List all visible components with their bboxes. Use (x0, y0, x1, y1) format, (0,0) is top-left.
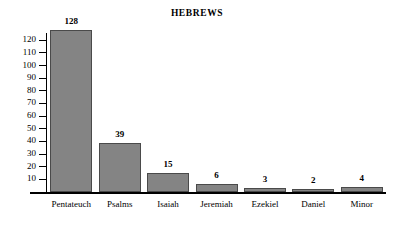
y-tick-mark (39, 116, 47, 117)
plot-area: 12839156324 (47, 33, 386, 192)
bar[interactable] (196, 184, 238, 192)
y-tick-label: 90 (0, 73, 36, 82)
y-tick-label: 70 (0, 98, 36, 107)
x-axis-line (30, 192, 386, 194)
y-tick-label: 40 (0, 136, 36, 145)
y-tick-mark (39, 78, 47, 79)
y-tick-label: 60 (0, 111, 36, 120)
y-tick-mark (39, 103, 47, 104)
bar-column[interactable]: 3 (244, 33, 286, 192)
y-tick-label: 120 (0, 35, 36, 44)
y-tick-mark (39, 154, 47, 155)
bar-column[interactable]: 128 (50, 33, 92, 192)
y-tick-label: 50 (0, 124, 36, 133)
y-tick-mark (39, 40, 47, 41)
bar-column[interactable]: 2 (292, 33, 334, 192)
y-tick-label: 10 (0, 174, 36, 183)
y-tick-mark (39, 65, 47, 66)
bar[interactable] (341, 187, 383, 192)
bar-value-label: 39 (85, 130, 155, 139)
y-tick-mark (39, 179, 47, 180)
bar[interactable] (292, 189, 334, 192)
bar[interactable] (244, 188, 286, 192)
bar-column[interactable]: 15 (147, 33, 189, 192)
y-tick-label: 110 (0, 48, 36, 57)
y-tick-mark (39, 90, 47, 91)
y-tick-mark (39, 128, 47, 129)
bar-value-label: 15 (133, 160, 203, 169)
bar-value-label: 4 (327, 174, 394, 183)
bar[interactable] (50, 30, 92, 192)
bar-chart: HEBREWS 120110100908070605040302010 1283… (0, 0, 394, 225)
bar-value-label: 128 (36, 17, 106, 26)
y-tick-mark (39, 166, 47, 167)
y-tick-label: 30 (0, 149, 36, 158)
y-tick-label: 80 (0, 86, 36, 95)
y-tick-label: 100 (0, 61, 36, 70)
bar-column[interactable]: 6 (196, 33, 238, 192)
y-tick-mark (39, 141, 47, 142)
y-tick-label: 20 (0, 162, 36, 171)
x-category-label: Minor (322, 199, 394, 210)
bar-column[interactable]: 4 (341, 33, 383, 192)
y-tick-mark (39, 52, 47, 53)
